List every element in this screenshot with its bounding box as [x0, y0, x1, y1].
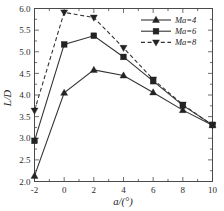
series-line [35, 70, 213, 176]
legend-label: Ma=6 [174, 26, 197, 36]
y-axis-title: L/D [2, 89, 13, 107]
marker-square [121, 54, 127, 60]
y-tick-label: 4.5 [19, 69, 31, 79]
x-tick-label: 6 [151, 185, 156, 195]
legend-label: Ma=4 [174, 15, 197, 25]
marker-square [61, 41, 67, 47]
y-tick-label: 4.0 [19, 90, 31, 100]
marker-triangle-up [31, 172, 38, 178]
chart-figure: -20246810 2.02.53.03.54.04.55.05.56.0 a/… [0, 0, 224, 211]
legend-entry-ma-6: Ma=6 [141, 26, 197, 36]
x-tick-label: -2 [31, 185, 39, 195]
series-ma-4 [31, 66, 216, 178]
y-tick-label: 2.5 [19, 155, 31, 165]
marker-triangle-up [153, 16, 160, 22]
legend-label: Ma=8 [174, 37, 197, 47]
legend-entry-ma-4: Ma=4 [141, 15, 197, 25]
x-tick-label: 4 [121, 185, 126, 195]
marker-triangle-up [90, 66, 97, 72]
marker-triangle-down [61, 10, 68, 16]
y-tick-label: 5.5 [19, 25, 31, 35]
x-axis-tick-labels: -20246810 [31, 185, 218, 195]
x-axis-title: a/(°) [113, 196, 133, 208]
marker-square [91, 33, 97, 39]
x-tick-label: 8 [181, 185, 186, 195]
marker-square [32, 138, 38, 144]
legend-entry-ma-8: Ma=8 [141, 37, 197, 47]
y-tick-label: 2.0 [19, 177, 31, 187]
marker-triangle-down [31, 108, 38, 114]
marker-triangle-up [61, 89, 68, 95]
y-tick-label: 3.5 [19, 112, 31, 122]
marker-triangle-down [153, 40, 160, 46]
marker-square [153, 28, 159, 34]
x-tick-label: 10 [208, 185, 218, 195]
y-tick-label: 3.0 [19, 133, 31, 143]
chart-legend: Ma=4Ma=6Ma=8 [141, 15, 197, 47]
y-tick-label: 6.0 [19, 4, 31, 14]
line-chart: -20246810 2.02.53.03.54.04.55.05.56.0 a/… [0, 0, 224, 211]
x-tick-label: 0 [62, 185, 67, 195]
marker-triangle-down [90, 15, 97, 21]
y-tick-label: 5.0 [19, 47, 31, 57]
x-tick-label: 2 [92, 185, 97, 195]
marker-triangle-up [150, 89, 157, 95]
y-axis-tick-labels: 2.02.53.03.54.04.55.05.56.0 [19, 4, 31, 187]
